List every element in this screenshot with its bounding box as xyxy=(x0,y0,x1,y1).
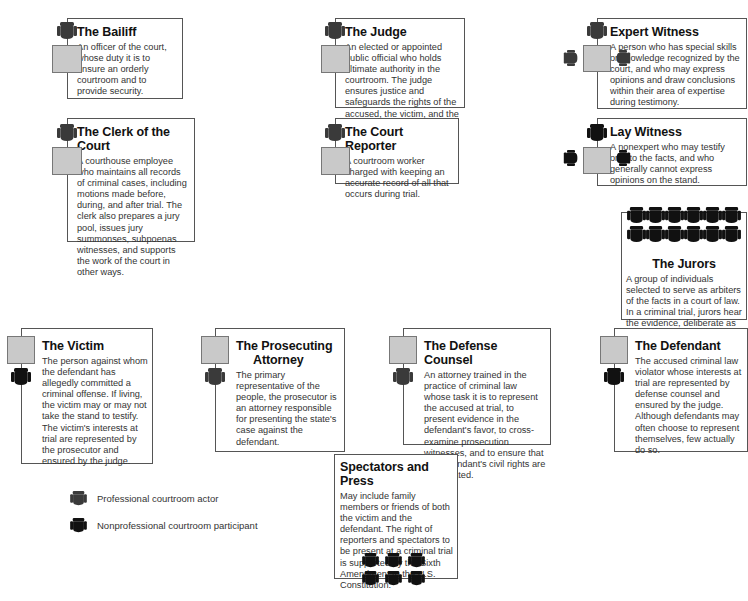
legend-professional: Professional courtroom actor xyxy=(70,491,218,506)
nonprofessional-chair-icon xyxy=(627,207,646,224)
role-description: A courtroom worker charged with keeping … xyxy=(345,156,454,200)
nonprofessional-chair-icon xyxy=(665,226,684,243)
professional-chair-icon xyxy=(393,368,413,386)
desk-icon xyxy=(583,147,611,174)
professional-chair-icon xyxy=(70,491,87,506)
nonprofessional-chair-icon xyxy=(604,368,624,386)
role-card-clerk: The Clerk of the Court A courthouse empl… xyxy=(67,118,195,242)
desk-icon xyxy=(52,147,82,175)
role-card-defense: The Defense Counsel An attorney trained … xyxy=(403,328,551,445)
role-title: The Victim xyxy=(42,339,148,353)
role-title: The Prosecuting Attorney xyxy=(236,339,340,367)
nonprofessional-chair-icon xyxy=(703,207,722,224)
desk-icon xyxy=(600,336,628,364)
role-title: The Defense Counsel xyxy=(424,339,546,367)
professional-chair-icon xyxy=(57,124,77,142)
role-card-judge: The Judge An elected or appointed public… xyxy=(335,18,465,108)
role-title: The Jurors xyxy=(626,257,742,271)
role-card-victim: The Victim The person against whom the d… xyxy=(21,328,153,464)
professional-chair-icon xyxy=(57,22,77,40)
professional-chair-icon xyxy=(325,124,345,142)
nonprofessional-chair-icon xyxy=(722,226,741,243)
role-title: The Judge xyxy=(345,25,460,39)
spectator-seats xyxy=(362,553,432,586)
role-title: The Clerk of the Court xyxy=(77,125,190,153)
nonprofessional-chair-icon xyxy=(408,553,425,568)
legend-label: Professional courtroom actor xyxy=(97,493,218,504)
professional-chair-icon xyxy=(325,22,345,40)
nonprofessional-chair-icon xyxy=(722,207,741,224)
legend-label: Nonprofessional courtroom participant xyxy=(97,520,258,531)
role-description: A courthouse employee who maintains all … xyxy=(77,156,190,278)
nonprofessional-chair-icon xyxy=(362,553,379,568)
role-title: Spectators and Press xyxy=(340,460,453,488)
desk-icon xyxy=(52,45,82,73)
role-title: The Bailiff xyxy=(77,25,178,39)
professional-chair-icon xyxy=(615,50,631,66)
desk-icon xyxy=(7,336,35,364)
desk-icon xyxy=(321,147,350,175)
desk-icon xyxy=(389,336,417,364)
role-title-line2: Attorney xyxy=(236,353,304,367)
role-card-prosecutor: The Prosecuting Attorney The primary rep… xyxy=(215,328,345,452)
role-description: The accused criminal law violator whose … xyxy=(635,356,743,456)
professional-chair-icon xyxy=(563,50,579,66)
role-title: The Court Reporter xyxy=(345,125,454,153)
role-title: The Defendant xyxy=(635,339,743,353)
role-description: The person against whom the defendant ha… xyxy=(42,356,148,467)
role-title: Lay Witness xyxy=(610,125,742,139)
nonprofessional-chair-icon xyxy=(703,226,722,243)
professional-chair-icon xyxy=(205,368,225,386)
legend-nonprofessional: Nonprofessional courtroom participant xyxy=(70,518,258,533)
role-card-defendant: The Defendant The accused criminal law v… xyxy=(614,328,748,452)
nonprofessional-chair-icon xyxy=(385,571,402,586)
nonprofessional-chair-icon xyxy=(627,226,646,243)
nonprofessional-chair-icon xyxy=(646,207,665,224)
nonprofessional-chair-icon xyxy=(665,207,684,224)
juror-seats xyxy=(627,207,743,243)
role-card-court-reporter: The Court Reporter A courtroom worker ch… xyxy=(335,118,459,184)
role-description: An officer of the court, whose duty it i… xyxy=(77,42,178,97)
nonprofessional-chair-icon xyxy=(385,553,402,568)
role-title: Expert Witness xyxy=(610,25,742,39)
nonprofessional-chair-icon xyxy=(684,226,703,243)
desk-icon xyxy=(321,45,350,73)
nonprofessional-chair-icon xyxy=(70,518,87,533)
professional-chair-icon xyxy=(587,22,607,40)
nonprofessional-chair-icon xyxy=(684,207,703,224)
nonprofessional-chair-icon xyxy=(563,150,579,166)
nonprofessional-chair-icon xyxy=(362,571,379,586)
nonprofessional-chair-icon xyxy=(587,124,607,142)
nonprofessional-chair-icon xyxy=(615,150,631,166)
nonprofessional-chair-icon xyxy=(408,571,425,586)
role-title-line1: The Prosecuting xyxy=(236,339,332,353)
nonprofessional-chair-icon xyxy=(646,226,665,243)
desk-icon xyxy=(583,45,611,72)
role-card-bailiff: The Bailiff An officer of the court, who… xyxy=(67,18,183,99)
desk-icon xyxy=(201,336,229,364)
role-description: The primary representative of the people… xyxy=(236,370,340,448)
nonprofessional-chair-icon xyxy=(11,368,31,386)
